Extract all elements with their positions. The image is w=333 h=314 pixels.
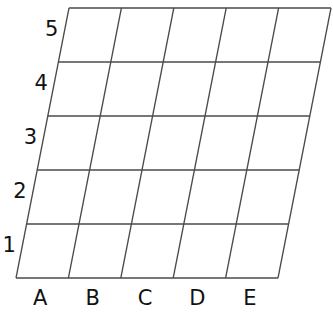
skewed-grid [0, 0, 333, 314]
row-label-1: 1 [3, 235, 16, 256]
grid-column-line [278, 8, 331, 278]
column-label-d: D [189, 288, 205, 309]
column-label-a: A [33, 288, 47, 309]
grid-column-line [173, 8, 226, 278]
grid-column-line [226, 8, 279, 278]
row-label-4: 4 [34, 73, 47, 94]
grid-lines [16, 8, 331, 278]
column-label-b: B [85, 288, 99, 309]
row-label-2: 2 [13, 181, 26, 202]
row-label-5: 5 [45, 19, 58, 40]
column-label-e: E [243, 288, 256, 309]
grid-column-line [121, 8, 174, 278]
column-label-c: C [138, 288, 153, 309]
row-label-3: 3 [24, 127, 37, 148]
grid-column-line [68, 8, 121, 278]
